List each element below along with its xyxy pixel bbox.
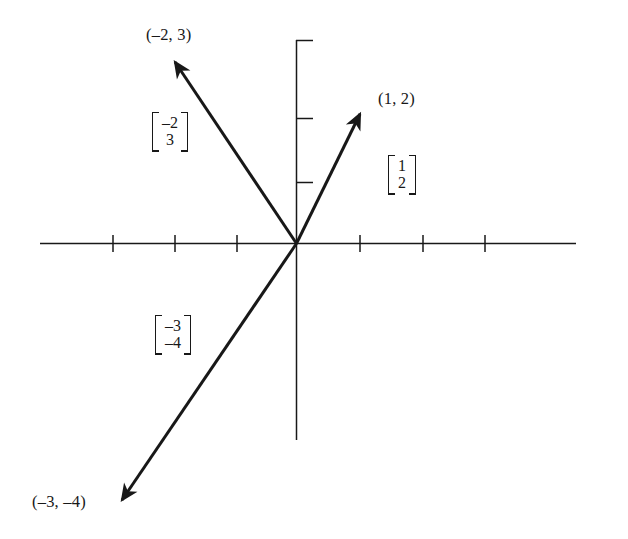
bracket-left-icon [388,155,395,195]
matrix-minus3-minus4: –3 –4 [155,315,191,355]
matrix-cell-bottom: 2 [398,175,406,193]
vector-diagram-figure: (–2, 3) –2 3 (1, 2) 1 2 –3 –4 (–3, –4) [0,0,628,539]
matrix-cell-top: –3 [165,317,181,335]
bracket-right-icon [184,315,191,355]
bracket-left-icon [152,112,159,152]
matrix-cells: –3 –4 [162,315,184,355]
vector-arrow-minus3-minus4 [122,244,297,501]
matrix-cells: 1 2 [395,155,409,195]
bracket-left-icon [155,315,162,355]
vector-arrow-1-2 [297,114,361,244]
matrix-cells: –2 3 [159,112,181,152]
bracket-right-icon [409,155,416,195]
coordinate-plane-svg [0,0,628,539]
matrix-cell-top: –2 [162,114,178,132]
bracket-right-icon [181,112,188,152]
matrix-cell-bottom: 3 [166,132,174,150]
matrix-cell-top: 1 [398,157,406,175]
matrix-1-2: 1 2 [388,155,416,195]
point-label-minus3-minus4: (–3, –4) [32,494,86,511]
matrix-minus2-3: –2 3 [152,112,188,152]
point-label-1-2: (1, 2) [378,91,415,108]
y-axis-ticks-positive [296,41,313,183]
vector-arrow-minus2-3 [175,62,297,244]
point-label-minus2-3: (–2, 3) [146,27,191,44]
matrix-cell-bottom: –4 [165,335,181,353]
